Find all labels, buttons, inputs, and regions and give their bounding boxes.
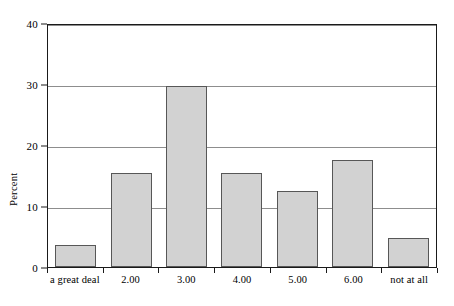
y-tick-label: 10 (27, 202, 38, 213)
bar-slot (159, 25, 214, 267)
y-axis-title: Percent (9, 172, 20, 206)
y-tick-label: 40 (27, 19, 38, 30)
bar-chart: 010203040 Percent a great deal2.003.004.… (0, 0, 454, 306)
bar[interactable] (332, 160, 373, 267)
y-tick-label: 30 (27, 80, 38, 91)
x-tick-label: 6.00 (326, 274, 382, 286)
x-tick-mark (214, 268, 215, 273)
x-axis-labels: a great deal2.003.004.005.006.00not at a… (47, 274, 437, 286)
x-tick-mark (103, 268, 104, 273)
bar-slot (214, 25, 269, 267)
bar-slot (325, 25, 380, 267)
bar[interactable] (388, 238, 429, 267)
bar[interactable] (55, 245, 96, 267)
bar[interactable] (166, 86, 207, 267)
x-tick-label: a great deal (47, 274, 103, 286)
x-tick-label: 5.00 (270, 274, 326, 286)
bar[interactable] (277, 191, 318, 267)
bar-series (48, 25, 436, 267)
x-tick-mark (437, 268, 438, 273)
y-tick-label: 20 (27, 141, 38, 152)
x-tick-label: not at all (381, 274, 437, 286)
x-tick-mark (270, 268, 271, 273)
plot-area (47, 24, 437, 268)
bar-slot (381, 25, 436, 267)
x-tick-label: 3.00 (158, 274, 214, 286)
x-tick-mark (326, 268, 327, 273)
x-tick-label: 4.00 (214, 274, 270, 286)
bar[interactable] (111, 173, 152, 267)
bar-slot (103, 25, 158, 267)
x-tick-mark (381, 268, 382, 273)
bar-slot (48, 25, 103, 267)
bar-slot (270, 25, 325, 267)
y-axis: 010203040 (0, 24, 47, 268)
x-tick-mark (47, 268, 48, 273)
y-tick-label: 0 (32, 263, 38, 274)
x-tick-mark (158, 268, 159, 273)
x-tick-label: 2.00 (103, 274, 159, 286)
bar[interactable] (221, 173, 262, 267)
